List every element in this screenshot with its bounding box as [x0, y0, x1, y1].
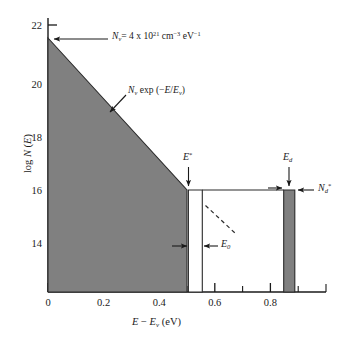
x-axis-title-unit: (eV): [162, 316, 181, 327]
y-axis-title: log N (E): [22, 114, 33, 194]
y-tick-label-22: 22: [32, 20, 43, 31]
nv-cm: cm: [162, 30, 174, 41]
annotation-nv-value: Nv= 4 x 1021 cm−3 eV−1: [112, 31, 201, 42]
y-axis-title-log: log: [22, 157, 33, 173]
annotation-tail-expression: Nv exp (−E/Ev): [128, 85, 185, 96]
nd-star-asterisk: *: [328, 182, 331, 189]
nv-ev: eV: [183, 30, 194, 41]
x-axis-title: E − Ev (eV): [132, 316, 181, 328]
dashed-guide-line: [206, 206, 237, 235]
e-star-asterisk: *: [189, 151, 192, 158]
x-axis-title-e: E: [132, 316, 138, 327]
figure-container: 22 20 18 16 14 0 0.2 0.4 0.6 0.8 Nv= 4 x…: [0, 0, 340, 340]
series-e0-band: [188, 190, 202, 292]
annotation-e-star: E*: [183, 152, 192, 163]
y-tick-label-14: 14: [32, 238, 43, 249]
y-tick-label-20: 20: [32, 79, 43, 90]
y-axis-title-e: E: [22, 137, 33, 143]
x-tick-label-0-4: 0.4: [153, 297, 167, 308]
annotation-e-zero: E0: [221, 239, 230, 251]
nv-rest: = 4 x 10: [121, 30, 153, 41]
x-tick-labels: 0 0.2 0.4 0.6 0.8: [45, 297, 277, 308]
tail-expression-leader: [110, 95, 126, 112]
tail-n-subscript: v: [134, 89, 137, 96]
y-axis-title-paren: (: [22, 144, 33, 150]
y-axis-title-paren2: ): [22, 134, 33, 138]
series-nd-star-bar: [284, 190, 295, 292]
chart-canvas: 22 20 18 16 14 0 0.2 0.4 0.6 0.8: [0, 0, 340, 340]
x-axis-title-minus: −: [141, 316, 147, 327]
e-d-subscript: d: [289, 156, 292, 163]
nv-cm-exponent: −3: [173, 30, 180, 37]
nv-ev-exponent: −1: [194, 30, 201, 37]
annotation-e-d: Ed: [283, 152, 292, 164]
x-tick-label-0: 0: [45, 297, 50, 308]
e-zero-subscript: 0: [227, 243, 230, 250]
annotation-nd-star: Nd*: [318, 183, 331, 195]
x-tick-label-0-8: 0.8: [264, 297, 277, 308]
tail-close: ): [182, 84, 185, 95]
y-axis-title-n: N: [22, 150, 33, 157]
tail-exp-open: exp (−: [140, 84, 165, 95]
x-tick-label-0-2: 0.2: [97, 297, 110, 308]
x-tick-label-0-6: 0.6: [208, 297, 221, 308]
series-valence-band-tail: [48, 38, 187, 292]
nd-star-symbol: N: [318, 182, 325, 193]
x-axis-title-subscript: v: [156, 321, 159, 328]
nv-exponent: 21: [153, 30, 159, 37]
